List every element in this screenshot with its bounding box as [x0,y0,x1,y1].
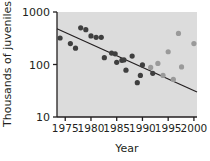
data-point [160,73,165,78]
data-point [150,71,155,76]
data-point [121,57,126,62]
y-tick-label-10: 10 [36,111,50,124]
data-point [83,27,88,32]
juvenile-abundance-scatter-chart: 101001000 197519801985199019952000 Year … [0,0,210,161]
x-tick-label-2000: 2000 [181,122,208,134]
data-point [114,60,119,65]
y-tick-label-1000: 1000 [22,6,50,19]
x-tick-label-1990: 1990 [129,122,156,134]
data-point [155,61,160,66]
data-point [73,46,78,51]
data-point [78,25,83,30]
chart-figure: 101001000 197519801985199019952000 Year … [0,0,210,161]
x-axis-title: Year [114,142,139,155]
data-point [113,51,118,56]
x-axis-tick-labels: 197519801985199019952000 [52,122,207,134]
x-tick-label-1975: 1975 [52,122,79,134]
data-point [166,49,171,54]
data-point [94,35,99,40]
data-point [135,80,140,85]
data-point [140,62,145,67]
data-point [148,65,153,70]
data-point [123,68,128,73]
data-point [88,33,93,38]
data-point [130,53,135,58]
data-point [99,35,104,40]
x-tick-label-1995: 1995 [155,122,182,134]
y-axis-title: Thousands of juveniles [1,1,14,128]
data-point [191,41,196,46]
y-tick-label-100: 100 [29,59,50,72]
data-point [68,41,73,46]
data-point [179,64,184,69]
x-tick-label-1980: 1980 [78,122,105,134]
x-tick-label-1985: 1985 [103,122,130,134]
plot-area-background [57,12,197,117]
data-point [171,77,176,82]
data-point [138,73,143,78]
data-point [102,55,107,60]
data-point [57,35,62,40]
data-point [176,31,181,36]
